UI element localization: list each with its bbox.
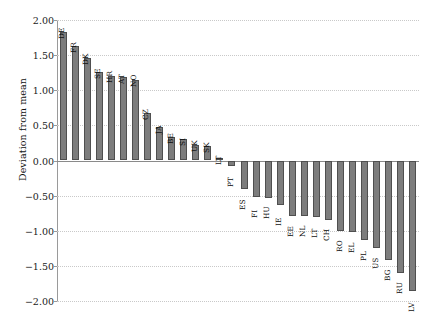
bar-category-label: FI — [250, 210, 259, 218]
bar — [265, 161, 272, 198]
bar-category-label: SK — [202, 142, 211, 153]
bar — [349, 161, 356, 233]
bar — [84, 58, 91, 161]
bar-category-label: HR — [105, 71, 114, 83]
bar — [397, 161, 404, 273]
bar — [313, 161, 320, 217]
bar-category-label: HU — [262, 206, 271, 219]
bar — [409, 161, 416, 292]
bar — [253, 161, 260, 198]
y-tick-label: 2.00 — [8, 15, 54, 26]
y-tick-label: 1.00 — [8, 85, 54, 96]
bar-category-label: UK — [190, 140, 199, 152]
bar — [72, 46, 79, 161]
bar-category-label: NO — [129, 74, 138, 87]
y-tick-mark — [54, 266, 57, 267]
bar-category-label: DK — [81, 53, 90, 65]
bar-category-label: EE — [286, 226, 295, 237]
bar-category-label: RO — [335, 240, 344, 252]
y-tick-label: −1.50 — [8, 260, 54, 271]
bar-category-label: RU — [395, 282, 404, 294]
bar-category-label: FR — [69, 42, 78, 53]
y-tick-label: 1.50 — [8, 50, 54, 61]
bar — [120, 77, 127, 161]
bar-chart: Deviation from mean DEFRDKSEHRATNOCZJABE… — [0, 0, 439, 322]
bar-category-label: AT — [117, 74, 126, 84]
bar — [337, 161, 344, 231]
gridline — [57, 301, 419, 302]
y-tick-mark — [54, 90, 57, 91]
y-tick-label: −0.50 — [8, 190, 54, 201]
bar — [60, 32, 67, 161]
bar-category-label: LT — [214, 156, 223, 166]
bar-category-label: CH — [322, 229, 331, 241]
bar — [132, 80, 139, 161]
y-tick-mark — [54, 231, 57, 232]
bar — [325, 161, 332, 221]
bar-category-label: ES — [238, 199, 247, 210]
y-tick-mark — [54, 55, 57, 56]
bar — [277, 161, 284, 205]
bar-category-label: BE — [166, 133, 175, 144]
bar — [241, 161, 248, 189]
gridline — [57, 20, 419, 21]
bar-category-label: IE — [274, 217, 283, 226]
y-tick-mark — [54, 20, 57, 21]
y-tick-mark — [54, 196, 57, 197]
bar — [228, 161, 235, 167]
bar-category-label: LT — [310, 228, 319, 238]
y-tick-label: −2.00 — [8, 296, 54, 307]
gridline — [57, 55, 419, 56]
bar-category-label: US — [371, 257, 380, 269]
bar-category-label: DE — [57, 27, 66, 39]
bar — [96, 72, 103, 161]
bar — [361, 161, 368, 240]
y-tick-label: −1.00 — [8, 225, 54, 236]
bar — [289, 161, 296, 216]
bar — [108, 76, 115, 160]
bar-category-label: EL — [347, 243, 356, 254]
plot-area: DEFRDKSEHRATNOCZJABESIUKSKLTPTESFIHUIEEE… — [57, 20, 419, 301]
gridline — [57, 266, 419, 267]
bar-category-label: LV — [407, 303, 416, 313]
y-tick-mark — [54, 161, 57, 162]
bar — [301, 161, 308, 216]
bar-category-label: JA — [154, 126, 163, 135]
y-tick-mark — [54, 125, 57, 126]
bar-category-label: PL — [359, 251, 368, 261]
bar-category-label: PT — [226, 177, 235, 187]
bar-category-label: CZ — [141, 109, 150, 120]
y-tick-label: 0.00 — [8, 155, 54, 166]
bar-category-label: NL — [298, 225, 307, 237]
y-tick-label: 0.50 — [8, 120, 54, 131]
bar — [373, 161, 380, 248]
y-tick-mark — [54, 301, 57, 302]
bar — [385, 161, 392, 260]
bar-category-label: SE — [93, 68, 102, 79]
bar-category-label: BG — [383, 269, 392, 281]
bar-category-label: SI — [178, 138, 187, 146]
